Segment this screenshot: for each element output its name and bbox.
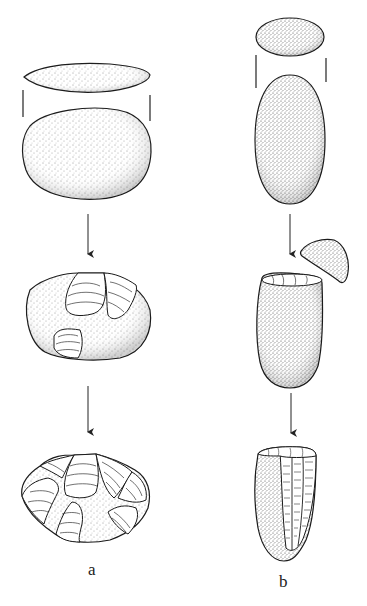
- reduction-sequence-figure: [0, 0, 367, 606]
- column-a: [22, 63, 151, 542]
- pebble-b-plan-view: [255, 75, 325, 204]
- core-b-decapitated: [257, 273, 323, 388]
- core-b-blade-core: [255, 447, 316, 561]
- pebble-a-side-view: [24, 63, 150, 92]
- column-label-b: b: [279, 573, 288, 590]
- column-label-a: a: [88, 561, 96, 578]
- core-a-initial-flaking: [26, 273, 150, 360]
- core-a-discoidal: [22, 454, 150, 542]
- column-b: [255, 18, 348, 561]
- pebble-b-end-view: [256, 18, 324, 56]
- pebble-a-plan-view: [23, 108, 152, 199]
